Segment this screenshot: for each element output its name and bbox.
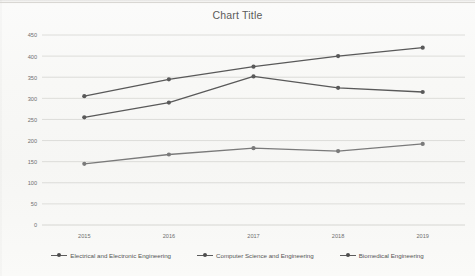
data-point-marker (421, 46, 425, 50)
legend-label: Computer Science and Engineering (216, 252, 314, 259)
data-point-marker (421, 90, 425, 94)
x-axis-tick-label: 2018 (332, 233, 344, 239)
y-axis-tick-label: 450 (28, 32, 37, 38)
x-axis-tick-label: 2016 (163, 233, 175, 239)
y-axis-tick-label: 100 (28, 180, 37, 186)
y-axis-tick-label: 350 (28, 75, 37, 81)
y-axis-tick-label: 50 (31, 201, 37, 207)
legend-label: Biomedical Engineering (359, 252, 424, 259)
x-axis-tick-label: 2017 (247, 233, 259, 239)
y-axis-tick-label: 150 (28, 159, 37, 165)
data-point-marker (336, 149, 340, 153)
legend-label: Electrical and Electronic Engineering (70, 252, 171, 259)
data-point-marker (167, 77, 171, 81)
data-point-marker (336, 86, 340, 90)
data-point-marker (82, 115, 86, 119)
y-axis-tick-label: 250 (28, 117, 37, 123)
series-line (84, 76, 422, 117)
y-axis-tick-label: 200 (28, 138, 37, 144)
x-axis-tick-label: 2015 (78, 233, 90, 239)
legend-item-eee[interactable]: Electrical and Electronic Engineering (51, 252, 171, 259)
data-point-marker (421, 142, 425, 146)
x-axis-tick-label: 2019 (416, 233, 428, 239)
data-point-marker (251, 74, 255, 78)
y-axis-tick-label: 400 (28, 54, 37, 60)
y-axis-tick-label: 0 (34, 222, 37, 228)
legend-item-bme[interactable]: Biomedical Engineering (340, 252, 424, 259)
data-point-marker (167, 152, 171, 156)
data-point-marker (336, 54, 340, 58)
chart-container: Chart Title 0501001502002503003504004502… (0, 0, 475, 276)
data-point-marker (251, 146, 255, 150)
data-point-marker (167, 100, 171, 104)
data-point-marker (82, 162, 86, 166)
legend-item-cse[interactable]: Computer Science and Engineering (197, 252, 314, 259)
line-chart-plot: 0501001502002503003504004502015201620172… (0, 0, 475, 250)
data-point-marker (251, 65, 255, 69)
legend-marker-icon (197, 252, 213, 259)
y-axis-tick-label: 300 (28, 96, 37, 102)
chart-legend: Electrical and Electronic Engineering Co… (0, 252, 475, 259)
legend-marker-icon (51, 252, 67, 259)
legend-marker-icon (340, 252, 356, 259)
data-point-marker (82, 94, 86, 98)
